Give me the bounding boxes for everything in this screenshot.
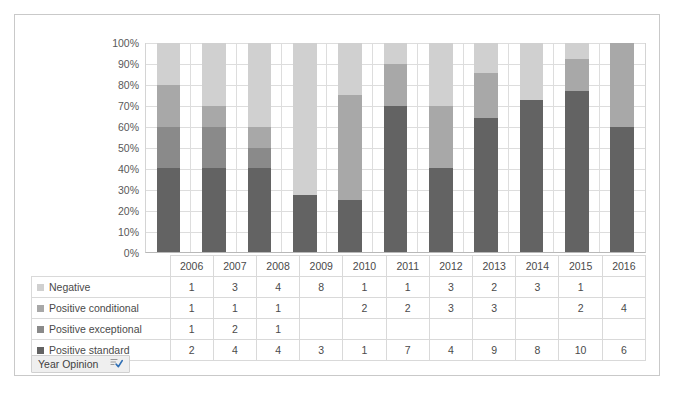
bar-segment[interactable] [429,43,453,106]
bar-segment[interactable] [520,100,544,252]
field-button-label: Year Opinion [38,358,98,370]
bar-segment[interactable] [157,85,181,127]
bar-slot [237,43,282,252]
table-year-header: 2015 [559,256,602,277]
stacked-bar[interactable] [384,43,408,252]
bar-slot [464,43,509,252]
legend-label: Positive conditional [49,302,139,314]
bar-segment[interactable] [338,43,362,95]
legend-entry: Positive exceptional [32,319,171,340]
table-cell: 1 [343,340,386,361]
y-axis: 100%90%80%70%60%50%40%30%20%10%0% [87,43,139,253]
bar-segment[interactable] [384,64,408,106]
table-cell: 1 [386,277,429,298]
bar-segment[interactable] [202,106,226,127]
bar-segment[interactable] [384,43,408,64]
year-opinion-field-button[interactable]: Year Opinion [31,355,130,373]
bar-segment[interactable] [520,43,544,100]
table-cell: 7 [386,340,429,361]
bar-segment[interactable] [293,43,317,195]
bar-segment[interactable] [202,127,226,169]
table-cell [602,277,645,298]
bar-segment[interactable] [384,106,408,252]
table-row: Negative1348113231 [32,277,646,298]
bar-segment[interactable] [565,91,589,252]
table-cell [300,319,343,340]
table-year-header: 2008 [256,256,299,277]
bar-segment[interactable] [157,127,181,169]
table-cell: 8 [516,340,559,361]
bar-segment[interactable] [202,168,226,252]
table-row: Positive exceptional121 [32,319,646,340]
stacked-bar[interactable] [474,43,498,252]
table-cell: 2 [559,298,602,319]
bar-segment[interactable] [565,59,589,91]
table-cell: 4 [429,340,472,361]
table-cell: 4 [602,298,645,319]
stacked-bar[interactable] [157,43,181,252]
legend-label: Negative [49,281,90,293]
bar-segment[interactable] [474,43,498,73]
bar-segment[interactable] [610,127,634,252]
stacked-bar[interactable] [202,43,226,252]
bar-segment[interactable] [202,43,226,106]
legend-swatch-icon [37,305,44,312]
bar-segment[interactable] [338,200,362,252]
bars-layer [146,43,645,252]
stacked-bar[interactable] [338,43,362,252]
plot-area [145,43,646,253]
table-cell: 1 [256,298,299,319]
bar-segment[interactable] [248,168,272,252]
table-year-header: 2006 [170,256,213,277]
table-year-header: 2014 [516,256,559,277]
stacked-bar[interactable] [248,43,272,252]
bar-segment[interactable] [474,118,498,252]
bar-segment[interactable] [248,148,272,169]
y-axis-tick: 50% [87,142,139,154]
table-cell: 1 [559,277,602,298]
legend-swatch-icon [37,347,44,354]
table-cell: 8 [300,277,343,298]
stacked-bar[interactable] [520,43,544,252]
table-cell: 2 [386,298,429,319]
table-cell: 1 [170,298,213,319]
bar-segment[interactable] [429,106,453,169]
y-axis-tick: 80% [87,79,139,91]
y-axis-tick: 40% [87,163,139,175]
chart-frame: 100%90%80%70%60%50%40%30%20%10%0% 200620… [14,14,660,376]
table-cell: 1 [170,319,213,340]
table-cell: 6 [602,340,645,361]
table-cell: 3 [300,340,343,361]
table-cell [602,319,645,340]
table-cell [300,298,343,319]
stacked-bar[interactable] [293,43,317,252]
stacked-bar[interactable] [565,43,589,252]
table-year-header: 2009 [300,256,343,277]
filter-sort-icon[interactable] [110,358,123,371]
table-cell: 2 [213,319,256,340]
table-cell: 3 [429,298,472,319]
table-year-header: 2016 [602,256,645,277]
bar-segment[interactable] [610,43,634,127]
table-cell: 2 [170,340,213,361]
table-cell: 1 [213,298,256,319]
bar-segment[interactable] [429,168,453,252]
bar-segment[interactable] [474,73,498,118]
bar-segment[interactable] [293,195,317,252]
stacked-bar[interactable] [429,43,453,252]
table-cell [473,319,516,340]
bar-segment[interactable] [338,95,362,200]
stacked-bar[interactable] [610,43,634,252]
bar-segment[interactable] [565,43,589,59]
y-axis-tick: 60% [87,121,139,133]
table-cell: 1 [256,319,299,340]
table-cell: 1 [170,277,213,298]
bar-slot [600,43,645,252]
bar-segment[interactable] [157,43,181,85]
bar-segment[interactable] [248,43,272,127]
bar-segment[interactable] [157,168,181,252]
bar-segment[interactable] [248,127,272,148]
table-cell: 3 [213,277,256,298]
bar-slot [373,43,418,252]
legend-entry: Positive conditional [32,298,171,319]
